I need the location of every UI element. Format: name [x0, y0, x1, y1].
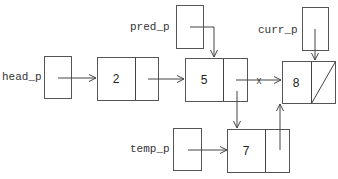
pointer-curr-p: curr_p	[258, 8, 329, 51]
pointer-label-temp-p: temp_p	[130, 143, 170, 155]
node-8-value: 8	[293, 76, 300, 90]
linked-list-diagram: head_p 2 pred_p 5 x curr_p	[0, 0, 338, 179]
node-5-value: 5	[201, 73, 208, 87]
pointer-label-pred-p: pred_p	[130, 21, 170, 33]
node-7-value: 7	[243, 144, 250, 158]
pointer-label-head-p: head_p	[2, 71, 42, 83]
pointer-label-curr-p: curr_p	[258, 24, 298, 36]
node-2-value: 2	[113, 72, 120, 86]
node-8: 8	[283, 62, 336, 104]
removed-link-x-mark: x	[257, 75, 262, 86]
node-8-box	[283, 62, 336, 104]
